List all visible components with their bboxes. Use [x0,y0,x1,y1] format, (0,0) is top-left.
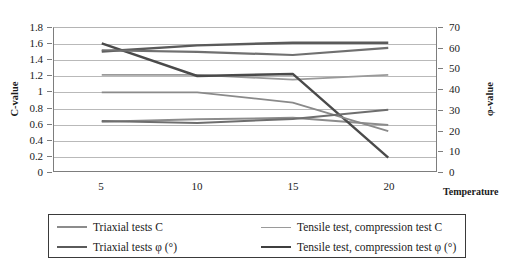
y-axis-right-tick [438,172,443,173]
x-axis-title: Temperature [443,186,499,197]
y-axis-left-tick [47,27,52,28]
y-axis-right-tick-label: 30 [449,104,460,115]
legend-swatch-icon [261,227,291,228]
y-axis-left-tick [47,108,52,109]
y-axis-right-tick-label: 0 [449,167,455,178]
y-axis-right-tick [438,151,443,152]
y-axis-right-tick-label: 50 [449,63,460,74]
y-axis-left-tick [47,140,52,141]
legend-swatch-icon [57,246,87,248]
x-axis-tick-label: 10 [192,180,203,192]
y-axis-right-tick [438,68,443,69]
y-axis-left-tick [47,156,52,157]
y-axis-left-tick-label: 0.2 [30,150,43,161]
plot-area [53,27,437,172]
y-axis-left-tick-label: 0 [38,167,43,178]
y-axis-right-tick-label: 70 [449,22,460,33]
x-axis-tick-label: 20 [384,180,395,192]
y-axis-right-tick [438,48,443,49]
y-axis-left-tick [47,172,52,173]
y-axis-left-tick-label: 0.8 [30,102,43,113]
legend-item: Tensile test, compression test C [261,217,442,237]
x-axis-tick-label: 15 [288,180,299,192]
series-line [102,43,389,157]
legend-item: Triaxial tests φ (°) [57,237,177,257]
y-axis-left-tick-label: 0.4 [30,134,43,145]
y-axis-left-tick [47,124,52,125]
y-axis-right-tick [438,110,443,111]
y-axis-left-tick-label: 1 [38,86,43,97]
chart-legend: Triaxial tests C Triaxial tests φ (°) Te… [48,214,466,258]
chart-container: 00.20.40.60.811.21.41.61.8 0102030405060… [0,0,513,266]
y-axis-left-tick [47,91,52,92]
series-line [102,92,389,131]
y-axis-left-tick-label: 1.4 [30,54,43,65]
y-axis-right-tick-label: 60 [449,42,460,53]
y-axis-left-tick [47,43,52,44]
legend-swatch-icon [57,226,87,228]
legend-item: Triaxial tests C [57,217,163,237]
y-axis-left-tick-label: 1.2 [30,70,43,81]
series-lines [54,28,436,171]
y-axis-right-tick-label: 20 [449,125,460,136]
x-axis-tick-label: 5 [98,180,104,192]
y-axis-left-tick-label: 1.8 [30,22,43,33]
y-axis-right-title: φ-value [484,82,495,116]
y-axis-right-tick [438,131,443,132]
legend-item: Tensile test, compression test φ (°) [261,237,456,257]
y-axis-right-tick [438,89,443,90]
y-axis-left-tick [47,75,52,76]
y-axis-left-tick [47,59,52,60]
legend-label: Triaxial tests φ (°) [93,241,177,253]
x-axis-labels: 5101520 [53,180,437,196]
y-axis-left-tick-label: 1.6 [30,38,43,49]
y-axis-right-tick-label: 40 [449,84,460,95]
legend-label: Tensile test, compression test φ (°) [297,241,456,253]
y-axis-left-labels: 00.20.40.60.811.21.41.61.8 [0,27,50,172]
y-axis-right-tick-label: 10 [449,146,460,157]
y-axis-right-tick [438,27,443,28]
legend-label: Triaxial tests C [93,221,163,233]
y-axis-left-tick-label: 0.6 [30,118,43,129]
legend-label: Tensile test, compression test C [297,221,442,233]
legend-swatch-icon [261,246,291,248]
y-axis-left-title: C-value [9,82,20,117]
